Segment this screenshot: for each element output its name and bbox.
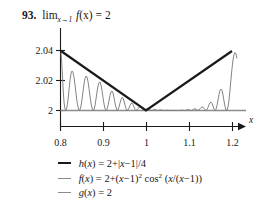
curve-h <box>61 51 232 111</box>
curve-f <box>61 53 237 111</box>
chart-svg: 2.04 2.02 2 0.8 0.9 1 1.1 1.2 x <box>0 22 264 152</box>
legend-item-g: g(x) = 2 <box>58 186 264 201</box>
problem-header: 93. limx→1 f(x) = 2 <box>22 7 252 23</box>
x-tick-label-3: 1.1 <box>183 137 196 148</box>
squeeze-theorem-chart: 2.04 2.02 2 0.8 0.9 1 1.1 1.2 x <box>0 22 264 152</box>
problem-number: 93. <box>22 9 36 21</box>
legend-label-f: f(x) = 2+(x−1)2 cos2 (x/(x−1)) <box>79 173 202 184</box>
legend-swatch-f <box>58 178 71 179</box>
legend-label-g: g(x) = 2 <box>79 187 112 198</box>
x-tick-label-0: 0.8 <box>54 137 67 148</box>
limit-statement-rest: (x) = 2 <box>79 9 110 21</box>
x-axis-label: x <box>248 115 254 125</box>
y-tick-label-0: 2.04 <box>36 45 54 56</box>
x-tick-label-4: 1.2 <box>226 137 239 148</box>
x-tick-label-1: 0.9 <box>97 137 110 148</box>
chart-legend: h(x) = 2+|x−1|/4 f(x) = 2+(x−1)2 cos2 (x… <box>58 157 264 201</box>
legend-item-f: f(x) = 2+(x−1)2 cos2 (x/(x−1)) <box>58 172 264 187</box>
y-tick-label-2: 2 <box>48 105 53 116</box>
x-axis-arrow-icon <box>238 123 246 130</box>
legend-swatch-g <box>58 192 71 193</box>
x-tick-label-2: 1 <box>144 137 149 148</box>
legend-swatch-h <box>58 162 71 164</box>
legend-item-h: h(x) = 2+|x−1|/4 <box>58 157 264 172</box>
limit-keyword: lim <box>42 9 57 21</box>
y-tick-label-1: 2.02 <box>36 75 54 86</box>
legend-label-h: h(x) = 2+|x−1|/4 <box>79 158 147 169</box>
